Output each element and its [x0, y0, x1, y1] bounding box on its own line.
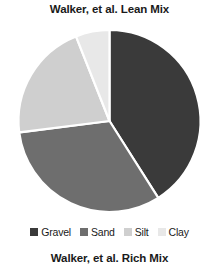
legend-label-silt: Silt — [135, 226, 149, 238]
legend-item-silt: Silt — [124, 226, 149, 238]
legend-swatch-silt — [124, 228, 132, 236]
pie-chart-plot-area — [0, 0, 219, 219]
legend-item-clay: Clay — [158, 226, 189, 238]
legend-swatch-clay — [158, 228, 166, 236]
legend-label-sand: Sand — [91, 226, 115, 238]
next-chart-title-partial: Walker, et al. Rich Mix — [0, 252, 219, 264]
legend-swatch-sand — [80, 228, 88, 236]
pie-slice-group — [19, 30, 201, 212]
legend-swatch-gravel — [30, 228, 38, 236]
legend-item-sand: Sand — [80, 226, 115, 238]
legend-item-gravel: Gravel — [30, 226, 71, 238]
pie-chart-figure: Walker, et al. Lean Mix Gravel Sand Silt… — [0, 0, 219, 264]
pie-chart-svg — [0, 0, 219, 219]
legend-label-gravel: Gravel — [41, 226, 71, 238]
legend-label-clay: Clay — [169, 226, 189, 238]
chart-legend: Gravel Sand Silt Clay — [0, 226, 219, 238]
